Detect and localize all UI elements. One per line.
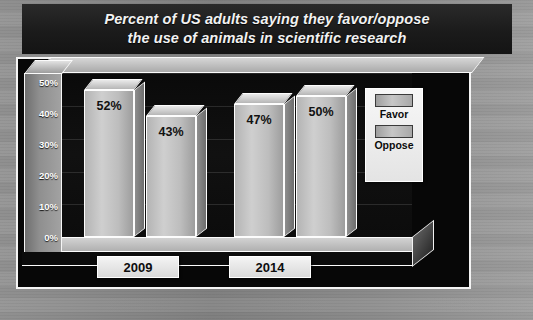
legend-label-oppose: Oppose bbox=[366, 139, 422, 152]
legend-item-oppose: Oppose bbox=[366, 125, 422, 152]
bar-side-face bbox=[346, 87, 357, 237]
bar-value-label: 52% bbox=[85, 99, 133, 113]
y-axis-tick-40: 40% bbox=[39, 108, 58, 119]
bar-2009-oppose: 43% bbox=[146, 116, 196, 237]
bar-2009-favor: 52% bbox=[84, 90, 134, 237]
y-axis-tick-30: 30% bbox=[39, 139, 58, 150]
bar-front-face: 50% bbox=[296, 96, 346, 237]
category-label-2014: 2014 bbox=[229, 256, 311, 278]
bar-value-label: 47% bbox=[235, 113, 283, 127]
bar-top-face bbox=[296, 85, 355, 96]
legend-label-favor: Favor bbox=[366, 108, 422, 121]
chart-floor bbox=[62, 237, 412, 252]
legend: Favor Oppose bbox=[365, 88, 423, 182]
legend-swatch-oppose bbox=[375, 125, 413, 138]
bar-side-face bbox=[196, 107, 207, 237]
category-label-2009: 2009 bbox=[97, 256, 179, 278]
y-axis-tick-20: 20% bbox=[39, 170, 58, 181]
bar-value-label: 43% bbox=[147, 125, 195, 139]
backwall-top-slab bbox=[38, 57, 485, 73]
bar-side-face bbox=[134, 81, 145, 237]
bar-value-label: 50% bbox=[297, 105, 345, 119]
bar-top-face bbox=[234, 93, 293, 104]
bar-2014-oppose: 50% bbox=[296, 96, 346, 237]
y-axis-wall: 50% 40% 30% 20% 10% 0% bbox=[24, 73, 62, 259]
bar-side-face bbox=[284, 95, 295, 237]
y-axis-tick-50: 50% bbox=[39, 77, 58, 88]
legend-item-favor: Favor bbox=[366, 94, 422, 121]
bar-top-face bbox=[84, 79, 143, 90]
bar-top-face bbox=[146, 105, 205, 116]
bar-front-face: 47% bbox=[234, 104, 284, 237]
chart-floor-front bbox=[22, 252, 412, 266]
gridline bbox=[62, 73, 412, 74]
y-axis-tick-0: 0% bbox=[44, 232, 58, 243]
bar-front-face: 43% bbox=[146, 116, 196, 237]
chart-image: Percent of US adults saying they favor/o… bbox=[0, 0, 533, 320]
chart-title: Percent of US adults saying they favor/o… bbox=[104, 10, 429, 47]
y-axis-tick-10: 10% bbox=[39, 201, 58, 212]
legend-swatch-favor bbox=[375, 94, 413, 107]
bar-front-face: 52% bbox=[84, 90, 134, 237]
bar-2014-favor: 47% bbox=[234, 104, 284, 237]
title-banner: Percent of US adults saying they favor/o… bbox=[22, 4, 512, 54]
